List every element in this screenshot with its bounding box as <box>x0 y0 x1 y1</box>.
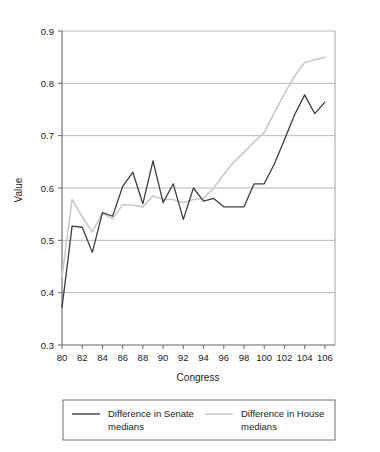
legend-box <box>63 400 335 440</box>
y-axis-title: Value <box>13 177 24 202</box>
x-tick-label: 98 <box>239 352 250 363</box>
x-tick-label: 84 <box>97 352 108 363</box>
y-tick-label: 0.8 <box>41 78 54 89</box>
x-tick-label: 102 <box>277 352 293 363</box>
x-tick-label: 104 <box>297 352 313 363</box>
x-tick-label: 88 <box>138 352 149 363</box>
x-tick-label: 90 <box>158 352 169 363</box>
x-tick-label: 92 <box>178 352 189 363</box>
y-tick-label: 0.4 <box>41 287 54 298</box>
y-tick-label: 0.7 <box>41 130 54 141</box>
legend-label-house-line2: medians <box>241 421 277 432</box>
y-tick-label: 0.5 <box>41 235 54 246</box>
y-tick-label: 0.3 <box>41 340 54 351</box>
x-tick-label: 82 <box>77 352 88 363</box>
x-tick-label: 96 <box>218 352 229 363</box>
figure-background <box>0 0 380 452</box>
x-tick-label: 94 <box>198 352 209 363</box>
x-tick-label: 80 <box>57 352 68 363</box>
chart-figure: 0.30.40.50.60.70.80.9 808284868890929496… <box>0 0 380 452</box>
y-tick-label: 0.9 <box>41 26 54 37</box>
legend-label-senate-line2: medians <box>108 421 144 432</box>
x-axis-title: Congress <box>177 372 220 383</box>
legend-label-senate-line1: Difference in Senate <box>108 408 194 419</box>
chart-legend: Difference in Senate medians Difference … <box>63 400 335 440</box>
x-tick-label: 100 <box>256 352 272 363</box>
x-tick-label: 86 <box>117 352 128 363</box>
x-tick-label: 106 <box>317 352 333 363</box>
line-chart: 0.30.40.50.60.70.80.9 808284868890929496… <box>0 0 380 452</box>
y-tick-label: 0.6 <box>41 183 54 194</box>
legend-label-house-line1: Difference in House <box>241 408 324 419</box>
